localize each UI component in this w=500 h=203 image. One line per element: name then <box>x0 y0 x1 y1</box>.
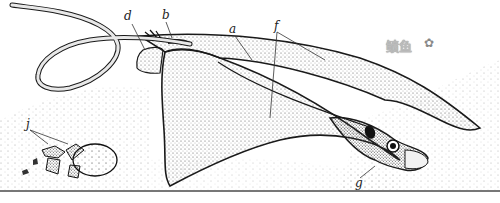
label-a: a <box>229 23 236 35</box>
ray-illustration: d b a f g j 鲼鱼 ✿ <box>0 0 500 203</box>
ray-drawing <box>0 0 500 203</box>
watermark-text: 鲼鱼 <box>386 36 412 55</box>
label-d: d <box>124 10 132 22</box>
label-f: f <box>274 20 278 32</box>
baseline-divider <box>0 190 500 192</box>
label-b: b <box>162 9 170 21</box>
star-icon: ✿ <box>424 36 434 50</box>
label-j: j <box>26 118 30 130</box>
label-g: g <box>355 177 363 189</box>
